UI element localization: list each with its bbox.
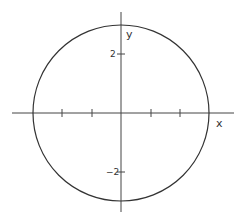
y-axis-label: y bbox=[126, 28, 133, 41]
circle-plot: x y 2 −2 bbox=[0, 0, 242, 217]
x-axis-label: x bbox=[216, 117, 223, 130]
y-tick-label-2: 2 bbox=[110, 49, 116, 59]
y-tick-label-neg2: −2 bbox=[106, 167, 119, 177]
